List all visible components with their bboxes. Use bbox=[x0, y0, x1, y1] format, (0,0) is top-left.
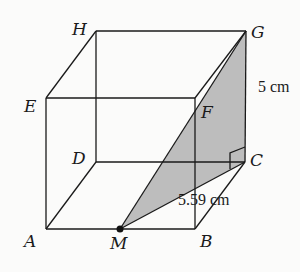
label-d: D bbox=[71, 148, 86, 168]
label-m: M bbox=[109, 233, 128, 253]
cube-diagram: H G E F D C A M B 5 cm 5.59 cm bbox=[0, 0, 300, 272]
label-c: C bbox=[250, 150, 263, 170]
label-e: E bbox=[23, 96, 37, 116]
label-g: G bbox=[251, 22, 265, 42]
diagram-canvas: H G E F D C A M B 5 cm 5.59 cm bbox=[0, 0, 300, 272]
point-m bbox=[117, 226, 124, 233]
label-a: A bbox=[22, 231, 36, 251]
measure-cg: 5 cm bbox=[258, 78, 290, 95]
edge-ad bbox=[46, 162, 96, 229]
label-f: F bbox=[200, 102, 214, 122]
measure-mc: 5.59 cm bbox=[178, 191, 230, 208]
edge-eh bbox=[46, 31, 96, 98]
label-b: B bbox=[199, 231, 213, 251]
label-h: H bbox=[71, 19, 88, 39]
